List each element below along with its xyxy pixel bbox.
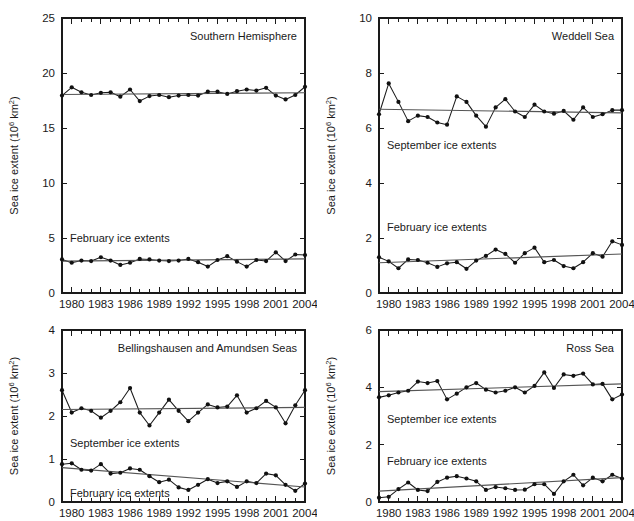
y-tick-label: 5 xyxy=(49,232,55,244)
x-tick-label: 1995 xyxy=(522,507,548,519)
x-tick-label: 1995 xyxy=(205,298,231,310)
data-point xyxy=(562,109,566,113)
data-point xyxy=(445,397,449,401)
data-point xyxy=(474,479,478,483)
y-tick-label: 10 xyxy=(359,12,372,24)
data-point xyxy=(484,388,488,392)
february-series-label: February ice extents xyxy=(70,232,170,244)
y-axis-title: Sea ice extent (106 km2) xyxy=(324,96,337,214)
september-series-label: September ice extents xyxy=(387,413,497,425)
x-tick-label: 1998 xyxy=(234,298,260,310)
data-point xyxy=(177,93,181,97)
data-point xyxy=(245,410,249,414)
x-tick-label: 1980 xyxy=(376,507,402,519)
data-point xyxy=(416,114,420,118)
data-point xyxy=(167,95,171,99)
february-series-label: February ice extents xyxy=(70,487,170,499)
data-point xyxy=(464,267,468,271)
data-point xyxy=(562,479,566,483)
data-point xyxy=(571,374,575,378)
data-point xyxy=(79,258,83,262)
data-point xyxy=(532,482,536,486)
data-point xyxy=(484,254,488,258)
data-point xyxy=(70,410,74,414)
data-point xyxy=(494,105,498,109)
data-point xyxy=(464,385,468,389)
data-point xyxy=(494,485,498,489)
data-point xyxy=(293,403,297,407)
y-tick-label: 4 xyxy=(366,381,373,393)
x-tick-label: 1986 xyxy=(117,507,143,519)
data-point xyxy=(283,97,287,101)
data-point xyxy=(60,257,64,261)
x-tick-label: 1992 xyxy=(493,298,519,310)
data-point xyxy=(591,251,595,255)
data-point xyxy=(225,92,229,96)
y-tick-label: 3 xyxy=(49,367,55,379)
data-point xyxy=(406,480,410,484)
panel-weddell-sea: 0246810198019831986198919921995199820012… xyxy=(317,0,634,312)
data-point xyxy=(494,247,498,251)
data-point xyxy=(79,468,83,472)
x-tick-label: 2004 xyxy=(292,298,317,310)
trend-line-september xyxy=(379,384,622,392)
data-point xyxy=(600,112,604,116)
x-tick-label: 1992 xyxy=(176,298,202,310)
data-point xyxy=(387,259,391,263)
data-point xyxy=(109,90,113,94)
data-point xyxy=(274,405,278,409)
data-point xyxy=(387,393,391,397)
data-point xyxy=(435,379,439,383)
data-point xyxy=(523,390,527,394)
data-point xyxy=(157,410,161,414)
data-point xyxy=(464,476,468,480)
february-series-label: February ice extents xyxy=(387,221,487,233)
data-point xyxy=(387,81,391,85)
chart-plot-area: 0246810198019831986198919921995199820012… xyxy=(317,0,634,312)
data-point xyxy=(377,255,381,259)
x-tick-label: 2004 xyxy=(609,507,634,519)
data-point xyxy=(186,93,190,97)
x-tick-label: 1989 xyxy=(463,298,489,310)
x-tick-label: 1983 xyxy=(88,298,114,310)
data-point xyxy=(225,479,229,483)
data-point xyxy=(303,388,307,392)
data-point xyxy=(109,409,113,413)
x-tick-label: 1995 xyxy=(205,507,231,519)
data-point xyxy=(503,252,507,256)
y-tick-label: 0 xyxy=(366,496,372,508)
trend-line-february xyxy=(379,478,622,491)
september-series-label: September ice extents xyxy=(70,437,180,449)
data-point xyxy=(264,259,268,263)
data-point xyxy=(600,255,604,259)
data-point xyxy=(532,246,536,250)
data-point xyxy=(416,488,420,492)
data-point xyxy=(532,103,536,107)
data-point xyxy=(396,487,400,491)
x-tick-label: 1992 xyxy=(493,507,519,519)
x-tick-label: 1980 xyxy=(59,298,85,310)
x-tick-label: 1980 xyxy=(59,507,85,519)
data-point xyxy=(474,258,478,262)
data-point xyxy=(523,251,527,255)
data-point xyxy=(406,119,410,123)
data-point xyxy=(70,461,74,465)
panel-title: Ross Sea xyxy=(566,342,615,354)
y-tick-label: 4 xyxy=(49,324,56,336)
data-point xyxy=(303,85,307,89)
data-point xyxy=(235,260,239,264)
panel-title: Weddell Sea xyxy=(552,30,615,42)
y-tick-label: 15 xyxy=(42,122,55,134)
data-point xyxy=(610,239,614,243)
data-point xyxy=(445,261,449,265)
x-tick-label: 1989 xyxy=(146,507,172,519)
data-point xyxy=(138,410,142,414)
data-point xyxy=(147,474,151,478)
data-point xyxy=(377,112,381,116)
data-point xyxy=(215,258,219,262)
data-point xyxy=(186,419,190,423)
data-point xyxy=(89,93,93,97)
data-point xyxy=(396,100,400,104)
x-tick-label: 1998 xyxy=(234,507,260,519)
data-point xyxy=(264,86,268,90)
